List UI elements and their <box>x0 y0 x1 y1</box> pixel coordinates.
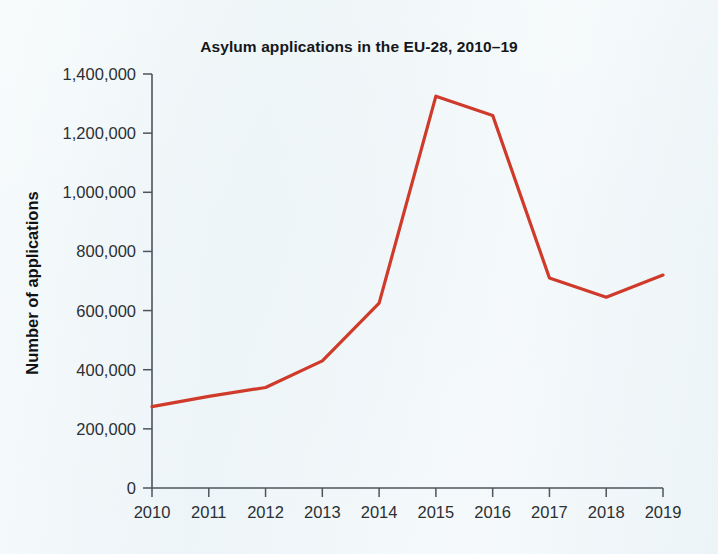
x-tick-label: 2016 <box>474 503 511 521</box>
x-axis-tick-labels: 2010201120122013201420152016201720182019 <box>134 503 682 521</box>
y-tick-label: 0 <box>127 479 136 497</box>
x-tick-label: 2015 <box>418 503 455 521</box>
y-tick-label: 1,000,000 <box>63 183 136 201</box>
x-tick-label: 2012 <box>247 503 284 521</box>
x-tick-label: 2017 <box>531 503 568 521</box>
y-tick-label: 800,000 <box>76 242 136 260</box>
line-chart: 0200,000400,000600,000800,0001,000,0001,… <box>0 0 718 554</box>
x-tick-label: 2010 <box>134 503 171 521</box>
x-axis-ticks <box>152 488 663 497</box>
y-tick-label: 600,000 <box>76 302 136 320</box>
y-axis-title: Number of applications <box>23 191 41 374</box>
x-tick-label: 2018 <box>588 503 625 521</box>
y-axis-tick-labels: 0200,000400,000600,000800,0001,000,0001,… <box>63 65 136 497</box>
x-tick-label: 2014 <box>361 503 398 521</box>
chart-plot-area: 0200,000400,000600,000800,0001,000,0001,… <box>0 0 718 554</box>
y-tick-label: 1,200,000 <box>63 124 136 142</box>
y-tick-label: 1,400,000 <box>63 65 136 83</box>
x-tick-label: 2013 <box>304 503 341 521</box>
data-series-line <box>152 96 663 407</box>
y-tick-label: 200,000 <box>76 420 136 438</box>
y-axis-ticks <box>143 74 152 488</box>
y-tick-label: 400,000 <box>76 361 136 379</box>
x-tick-label: 2019 <box>645 503 682 521</box>
x-tick-label: 2011 <box>191 503 226 521</box>
